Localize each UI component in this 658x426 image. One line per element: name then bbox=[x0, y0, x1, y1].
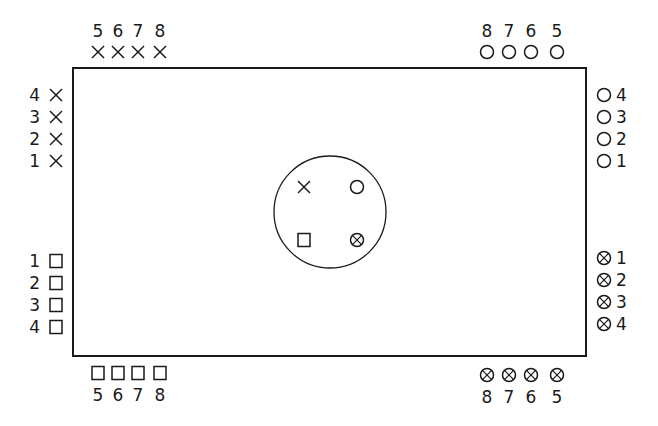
x-marker-icon bbox=[154, 46, 166, 58]
left-upper-port-4: 4 bbox=[29, 85, 62, 105]
right-lower-port-4: 4 bbox=[598, 314, 627, 334]
board-rectangle bbox=[73, 68, 586, 356]
circle-x-marker-icon bbox=[525, 369, 538, 382]
marker-label: 7 bbox=[504, 21, 515, 41]
top-right-port-7: 7 bbox=[503, 21, 516, 59]
square-marker-icon bbox=[50, 255, 62, 268]
circle-x-marker-icon bbox=[351, 234, 364, 247]
marker-label: 1 bbox=[29, 151, 40, 171]
bottom-left-port-6: 6 bbox=[112, 367, 124, 406]
marker-label: 8 bbox=[482, 387, 493, 407]
square-marker-icon bbox=[50, 321, 62, 334]
circle-x-marker-icon bbox=[598, 274, 611, 287]
top-right-port-5: 5 bbox=[551, 21, 564, 59]
x-marker-icon bbox=[92, 46, 104, 58]
center-circle bbox=[274, 156, 386, 268]
square-marker-icon bbox=[132, 367, 144, 380]
left-lower-port-4: 4 bbox=[29, 317, 62, 337]
marker-label: 1 bbox=[29, 251, 40, 271]
left-lower-port-3: 3 bbox=[29, 295, 62, 315]
marker-label: 1 bbox=[616, 151, 627, 171]
x-marker-icon bbox=[132, 46, 144, 58]
right-upper-port-4: 4 bbox=[598, 85, 627, 105]
square-marker-icon bbox=[154, 367, 166, 380]
right-lower-port-3: 3 bbox=[598, 292, 627, 312]
circle-x-marker-icon bbox=[503, 369, 516, 382]
top-left-port-8: 8 bbox=[154, 21, 166, 58]
marker-label: 8 bbox=[155, 385, 166, 405]
square-marker-icon bbox=[50, 277, 62, 290]
center-circle-group bbox=[274, 156, 386, 268]
marker-label: 4 bbox=[29, 85, 40, 105]
marker-label: 6 bbox=[526, 387, 537, 407]
right-lower-port-2: 2 bbox=[598, 270, 627, 290]
marker-label: 5 bbox=[93, 385, 104, 405]
right-upper-port-3: 3 bbox=[598, 107, 627, 127]
square-marker-icon bbox=[50, 299, 62, 312]
circle-x-marker-icon bbox=[598, 318, 611, 331]
top-left-port-5: 5 bbox=[92, 21, 104, 58]
top-left-port-7: 7 bbox=[132, 21, 144, 58]
marker-label: 7 bbox=[504, 387, 515, 407]
marker-label: 3 bbox=[616, 107, 627, 127]
marker-label: 6 bbox=[113, 21, 124, 41]
diagram-canvas: 56784321123456788765432112348765 bbox=[0, 0, 658, 426]
marker-label: 3 bbox=[616, 292, 627, 312]
circle-marker-icon bbox=[351, 181, 364, 194]
marker-label: 5 bbox=[552, 21, 563, 41]
marker-label: 2 bbox=[29, 129, 40, 149]
circle-marker-icon bbox=[525, 46, 538, 59]
left-upper-port-2: 2 bbox=[29, 129, 62, 149]
marker-label: 2 bbox=[616, 129, 627, 149]
marker-label: 5 bbox=[93, 21, 104, 41]
top-right-port-6: 6 bbox=[525, 21, 538, 59]
square-marker-icon bbox=[92, 367, 104, 380]
marker-label: 3 bbox=[29, 107, 40, 127]
circle-marker-icon bbox=[481, 46, 494, 59]
marker-label: 6 bbox=[526, 21, 537, 41]
circle-x-marker-icon bbox=[551, 369, 564, 382]
right-upper-port-2: 2 bbox=[598, 129, 627, 149]
square-marker-icon bbox=[112, 367, 124, 380]
x-marker-icon bbox=[50, 111, 62, 123]
left-lower-port-2: 2 bbox=[29, 273, 62, 293]
circle-marker-icon bbox=[551, 46, 564, 59]
top-right-port-8: 8 bbox=[481, 21, 494, 59]
bottom-right-port-6: 6 bbox=[525, 369, 538, 408]
bottom-left-port-7: 7 bbox=[132, 367, 144, 406]
bottom-right-port-5: 5 bbox=[551, 369, 564, 408]
left-upper-port-3: 3 bbox=[29, 107, 62, 127]
marker-label: 7 bbox=[133, 385, 144, 405]
right-lower-port-1: 1 bbox=[598, 248, 627, 268]
circle-marker-icon bbox=[598, 111, 611, 124]
left-upper-port-1: 1 bbox=[29, 151, 62, 171]
x-marker-icon bbox=[50, 155, 62, 167]
circle-marker-icon bbox=[503, 46, 516, 59]
marker-label: 8 bbox=[155, 21, 166, 41]
bottom-right-port-7: 7 bbox=[503, 369, 516, 408]
bottom-right-port-8: 8 bbox=[481, 369, 494, 408]
left-lower-port-1: 1 bbox=[29, 251, 62, 271]
circle-x-marker-icon bbox=[598, 296, 611, 309]
top-left-port-6: 6 bbox=[112, 21, 124, 58]
circle-marker-icon bbox=[598, 155, 611, 168]
marker-label: 2 bbox=[29, 273, 40, 293]
right-upper-port-1: 1 bbox=[598, 151, 627, 171]
circle-x-marker-icon bbox=[598, 252, 611, 265]
marker-label: 1 bbox=[616, 248, 627, 268]
bottom-left-port-8: 8 bbox=[154, 367, 166, 406]
marker-label: 7 bbox=[133, 21, 144, 41]
x-marker-icon bbox=[112, 46, 124, 58]
x-marker-icon bbox=[50, 89, 62, 101]
circle-marker-icon bbox=[598, 89, 611, 102]
bottom-left-port-5: 5 bbox=[92, 367, 104, 406]
marker-label: 5 bbox=[552, 387, 563, 407]
marker-label: 3 bbox=[29, 295, 40, 315]
x-marker-icon bbox=[50, 133, 62, 145]
circle-x-marker-icon bbox=[481, 369, 494, 382]
marker-label: 4 bbox=[616, 314, 627, 334]
marker-label: 6 bbox=[113, 385, 124, 405]
x-marker-icon bbox=[298, 181, 310, 193]
circle-marker-icon bbox=[598, 133, 611, 146]
square-marker-icon bbox=[298, 234, 310, 247]
